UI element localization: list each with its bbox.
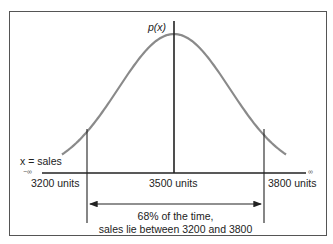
neg-infinity-label: −∞ <box>23 168 32 175</box>
tick-label-3200: 3200 units <box>31 177 79 189</box>
x-axis-label: x = sales <box>20 155 62 167</box>
normal-curve-diagram <box>0 0 333 244</box>
annotation-line-1: 68% of the time, <box>87 210 264 222</box>
y-axis-label: p(x) <box>148 21 166 33</box>
pos-infinity-label: ∞ <box>308 168 313 175</box>
tick-label-3800: 3800 units <box>268 177 316 189</box>
annotation-line-2: sales lie between 3200 and 3800 <box>87 223 264 235</box>
tick-label-3500: 3500 units <box>149 177 197 189</box>
